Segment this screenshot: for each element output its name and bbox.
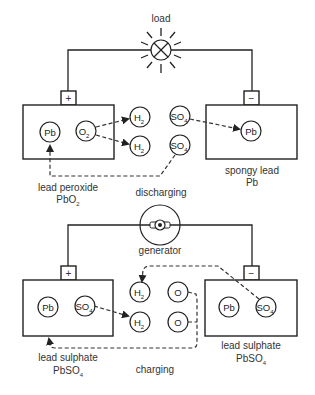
pb-formula: Pb	[246, 177, 259, 188]
electrolyte-discharging: H2 H2 SO4 SO4	[130, 106, 190, 156]
pb-particle-label: Pb	[223, 302, 235, 313]
pb-particle-label: Pb	[245, 126, 257, 137]
pbo2-formula: PbO2	[56, 194, 80, 207]
negative-cell-charging: − Pb SO4	[205, 266, 297, 336]
lead-sulphate-left-label: lead sulphate	[38, 352, 98, 363]
load-label: load	[152, 13, 171, 24]
generator-icon	[140, 205, 180, 245]
lead-sulphate-right-label: lead sulphate	[221, 340, 281, 351]
pb-particle-label: Pb	[44, 127, 56, 138]
pbso4-left-formula: PbSO4	[53, 365, 84, 378]
discharging-section: load +	[23, 13, 297, 207]
positive-cell-discharging: + Pb O2	[23, 91, 114, 159]
pbso4-right-formula: PbSO4	[236, 353, 267, 366]
lead-acid-battery-diagram: load +	[0, 0, 315, 395]
minus-sign: −	[249, 268, 255, 279]
positive-plate	[23, 105, 114, 159]
pb-particle-label: Pb	[42, 302, 54, 313]
o-label: O	[174, 287, 181, 298]
positive-cell-charging: + Pb SO4	[23, 266, 113, 336]
charging-label: charging	[136, 364, 174, 375]
generator-label: generator	[139, 245, 182, 256]
electrolyte-charging: H2 H2 O O	[130, 282, 188, 332]
plus-sign: +	[66, 93, 72, 104]
negative-cell-discharging: − Pb	[206, 91, 297, 159]
o-label: O	[174, 317, 181, 328]
spongy-lead-label: spongy lead	[225, 165, 279, 176]
positive-plate	[23, 280, 113, 336]
discharging-label: discharging	[135, 187, 186, 198]
charging-section: generator + Pb SO4 H2 H2 O O −	[23, 205, 297, 378]
minus-sign: −	[249, 93, 255, 104]
plus-sign: +	[66, 268, 72, 279]
lead-peroxide-label: lead peroxide	[38, 182, 98, 193]
